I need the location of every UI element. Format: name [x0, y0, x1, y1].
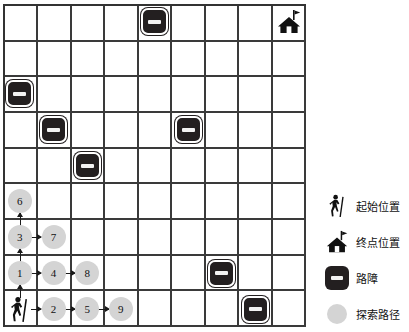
grid-cell[interactable]	[273, 291, 306, 327]
grid-cell[interactable]	[239, 42, 272, 78]
grid-cell[interactable]	[239, 220, 272, 256]
grid-cell[interactable]	[172, 149, 205, 185]
grid-cell[interactable]	[273, 77, 306, 113]
obstacle-bar	[182, 128, 195, 132]
grid-cell[interactable]	[239, 184, 272, 220]
grid-cell[interactable]	[206, 113, 239, 149]
obstacle-icon	[40, 116, 67, 143]
grid-cell[interactable]	[239, 6, 272, 42]
grid-cell[interactable]	[239, 256, 272, 292]
grid-cell[interactable]	[139, 77, 172, 113]
grid-cell[interactable]	[206, 220, 239, 256]
grid-cell[interactable]	[105, 149, 138, 185]
grid-cell[interactable]	[273, 113, 306, 149]
grid-cell[interactable]	[105, 184, 138, 220]
legend-item-obstacle: 路障	[322, 260, 409, 296]
obstacle-icon	[208, 260, 235, 287]
grid-cell[interactable]	[5, 6, 38, 42]
path-node[interactable]: 3	[8, 225, 32, 249]
path-arrow-right	[65, 273, 76, 274]
grid-cell[interactable]	[5, 42, 38, 78]
grid-cell[interactable]	[72, 77, 105, 113]
end-marker-house-flag-icon[interactable]	[276, 9, 302, 35]
grid-cell[interactable]	[38, 77, 71, 113]
grid-cell[interactable]	[172, 6, 205, 42]
grid-cell[interactable]	[172, 77, 205, 113]
grid-cell[interactable]	[72, 6, 105, 42]
grid-cell[interactable]	[273, 149, 306, 185]
grid-cell[interactable]	[72, 220, 105, 256]
grid-cell[interactable]	[105, 113, 138, 149]
path-arrow-right	[98, 309, 109, 310]
obstacle-bar	[13, 92, 26, 96]
grid-cell[interactable]	[273, 220, 306, 256]
obstacle-icon	[175, 116, 202, 143]
obstacle-icon	[242, 296, 269, 323]
grid-cell[interactable]	[206, 291, 239, 327]
grid-cell[interactable]	[139, 291, 172, 327]
obstacle-icon	[325, 266, 349, 290]
path-dot-icon	[327, 304, 347, 324]
legend-item-label: 探索路径	[356, 306, 400, 322]
grid-cell[interactable]	[172, 291, 205, 327]
grid-cell[interactable]	[172, 256, 205, 292]
grid-cell[interactable]	[38, 149, 71, 185]
grid-cell[interactable]	[139, 256, 172, 292]
grid-cell[interactable]	[105, 6, 138, 42]
path-node[interactable]: 7	[42, 225, 66, 249]
obstacle-icon	[74, 152, 101, 179]
grid-cell[interactable]	[139, 42, 172, 78]
grid-cell[interactable]	[139, 113, 172, 149]
grid-cell[interactable]	[172, 220, 205, 256]
grid-cell[interactable]	[206, 42, 239, 78]
obstacle-bar	[215, 271, 228, 275]
grid-cell[interactable]	[72, 113, 105, 149]
grid-cell[interactable]	[239, 77, 272, 113]
path-arrow-right	[31, 273, 42, 274]
grid-cell[interactable]	[139, 184, 172, 220]
grid-cell[interactable]	[206, 184, 239, 220]
grid-cell[interactable]	[72, 42, 105, 78]
path-dot-icon	[322, 299, 352, 329]
grid-cell[interactable]	[273, 256, 306, 292]
legend-item-label: 起始位置	[356, 198, 400, 214]
grid-cell[interactable]	[206, 77, 239, 113]
grid-cell[interactable]	[139, 220, 172, 256]
path-node[interactable]: 4	[42, 261, 66, 285]
obstacle-bar	[148, 20, 161, 24]
grid-cell[interactable]	[105, 42, 138, 78]
legend-item-label: 路障	[356, 270, 378, 286]
obstacle-bar	[47, 128, 60, 132]
grid-cell[interactable]	[105, 256, 138, 292]
hiker-icon	[322, 191, 352, 221]
grid-cell[interactable]	[239, 149, 272, 185]
grid-cell[interactable]	[273, 42, 306, 78]
grid-cell[interactable]	[38, 184, 71, 220]
path-node[interactable]: 2	[42, 297, 66, 321]
grid-cell[interactable]	[206, 149, 239, 185]
start-marker-hiker-icon[interactable]	[6, 296, 33, 323]
grid-cell[interactable]	[139, 149, 172, 185]
grid-cell[interactable]	[206, 6, 239, 42]
obstacle-icon	[6, 80, 33, 107]
grid-cell[interactable]	[72, 184, 105, 220]
house-flag-icon	[322, 227, 352, 257]
pathfinding-grid-figure: 123456789 起始位置终点位置路障探索路径	[0, 0, 409, 332]
path-node[interactable]: 9	[109, 297, 133, 321]
grid-cell[interactable]	[5, 149, 38, 185]
grid-container: 123456789	[3, 4, 306, 327]
grid-cell[interactable]	[38, 42, 71, 78]
grid-cell[interactable]	[38, 6, 71, 42]
grid-cell[interactable]	[273, 184, 306, 220]
obstacle-icon	[322, 263, 352, 293]
legend-item-hiker: 起始位置	[322, 188, 409, 224]
legend-item-label: 终点位置	[356, 234, 400, 250]
grid-cell[interactable]	[172, 42, 205, 78]
grid-cell[interactable]	[172, 184, 205, 220]
grid-cell[interactable]	[5, 113, 38, 149]
obstacle-bar	[81, 164, 94, 168]
grid-cell[interactable]	[105, 77, 138, 113]
path-node[interactable]: 1	[8, 261, 32, 285]
grid-cell[interactable]	[105, 220, 138, 256]
grid-cell[interactable]	[239, 113, 272, 149]
